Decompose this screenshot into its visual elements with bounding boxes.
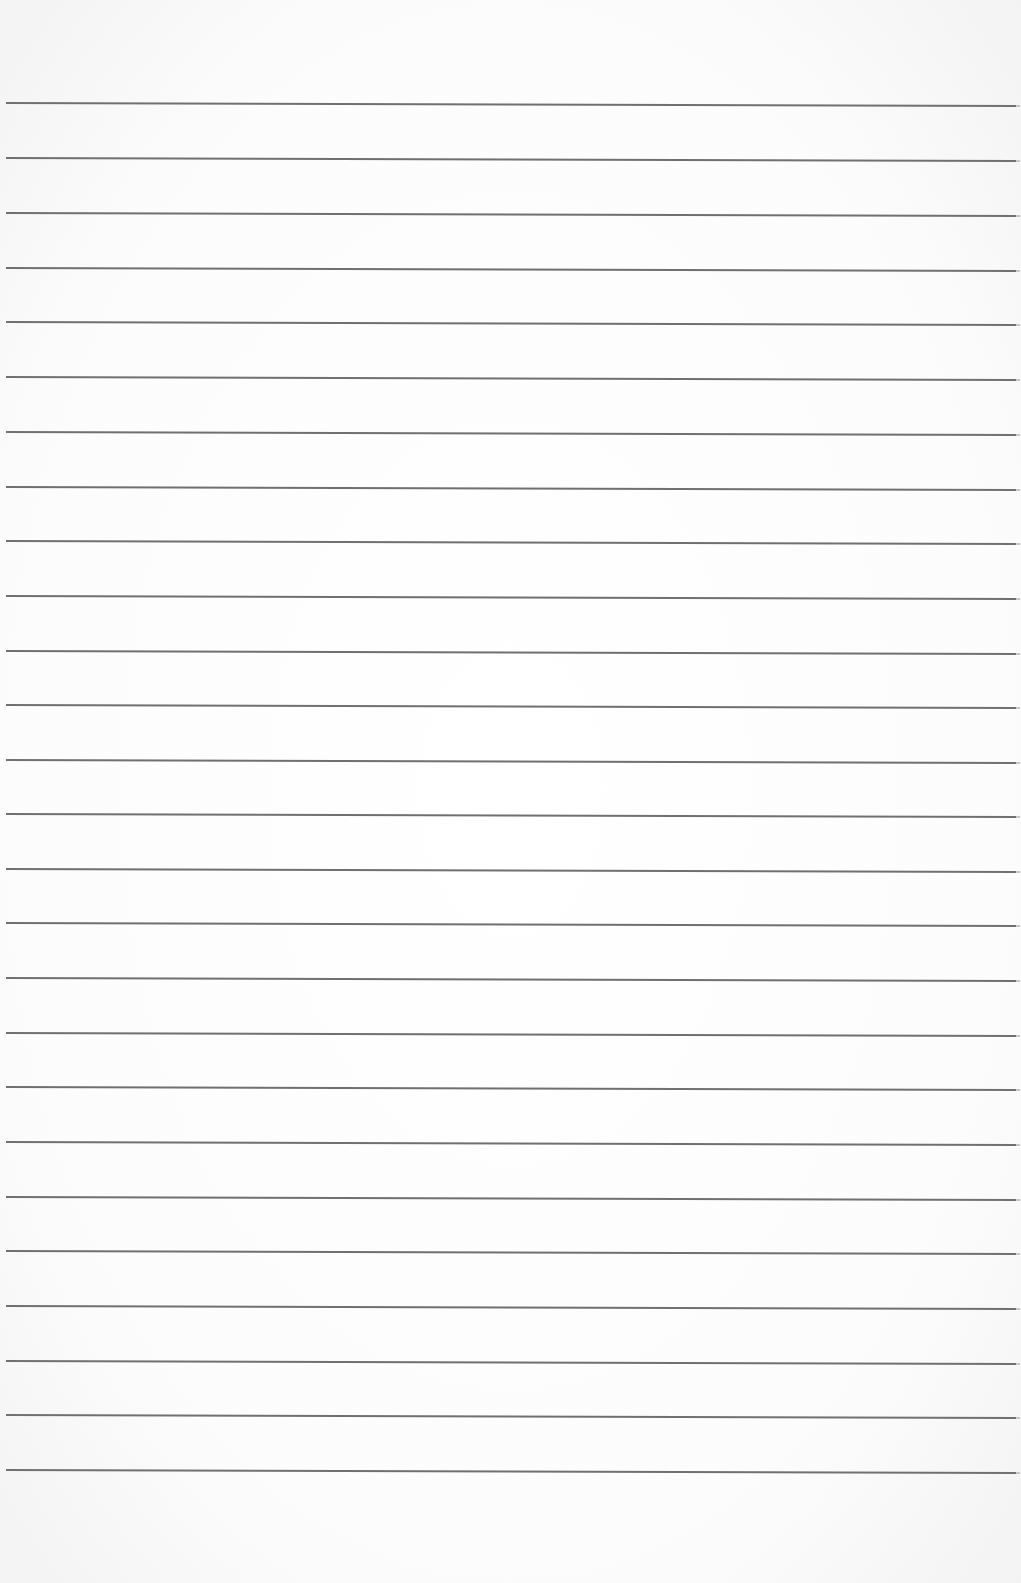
ruled-line xyxy=(6,1469,1016,1473)
ruled-line xyxy=(6,1414,1016,1418)
ruled-line xyxy=(6,321,1016,325)
ruled-line xyxy=(6,813,1016,817)
ruled-line xyxy=(6,1305,1016,1309)
ruled-line xyxy=(6,868,1016,872)
ruled-line xyxy=(6,759,1016,763)
ruled-line xyxy=(6,486,1016,490)
ruled-line xyxy=(6,540,1016,544)
ruled-line xyxy=(6,212,1016,216)
ruled-line xyxy=(6,650,1016,654)
ruled-line xyxy=(6,1086,1016,1090)
lined-paper-sheet xyxy=(0,0,1021,1583)
ruled-line xyxy=(6,1196,1016,1200)
ruled-line xyxy=(6,595,1016,599)
ruled-line xyxy=(6,102,1016,106)
ruled-line xyxy=(6,157,1016,161)
ruled-line xyxy=(6,704,1016,708)
ruled-line xyxy=(6,922,1016,926)
ruled-line xyxy=(6,1141,1016,1145)
ruled-line xyxy=(6,376,1016,380)
ruled-line xyxy=(6,1032,1016,1036)
ruled-line xyxy=(6,977,1016,981)
ruled-line xyxy=(6,431,1016,435)
ruled-line xyxy=(6,267,1016,271)
ruled-line xyxy=(6,1360,1016,1364)
ruled-line xyxy=(6,1250,1016,1254)
